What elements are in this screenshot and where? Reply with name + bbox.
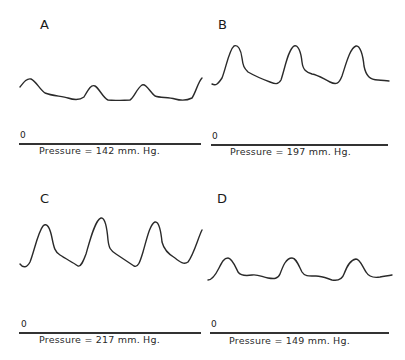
zero-label-a: 0 bbox=[20, 130, 26, 140]
zero-label-d: 0 bbox=[211, 319, 217, 329]
waveform-canvas bbox=[0, 0, 405, 360]
waveform-a bbox=[20, 78, 202, 100]
pressure-caption-c: Pressure = 217 mm. Hg. bbox=[39, 334, 160, 345]
pressure-caption-d: Pressure = 149 mm. Hg. bbox=[229, 335, 350, 346]
waveform-b bbox=[212, 46, 389, 85]
zero-label-c: 0 bbox=[21, 319, 27, 329]
panel-label-c: C bbox=[40, 191, 49, 206]
panel-label-d: D bbox=[217, 191, 227, 206]
zero-label-b: 0 bbox=[212, 131, 218, 141]
waveform-c bbox=[20, 218, 202, 267]
baseline-d bbox=[210, 332, 389, 334]
pressure-caption-a: Pressure = 142 mm. Hg. bbox=[39, 145, 160, 156]
waveform-d bbox=[208, 258, 392, 280]
panel-label-b: B bbox=[218, 17, 227, 32]
pressure-caption-b: Pressure = 197 mm. Hg. bbox=[230, 146, 351, 157]
panel-label-a: A bbox=[40, 17, 49, 32]
